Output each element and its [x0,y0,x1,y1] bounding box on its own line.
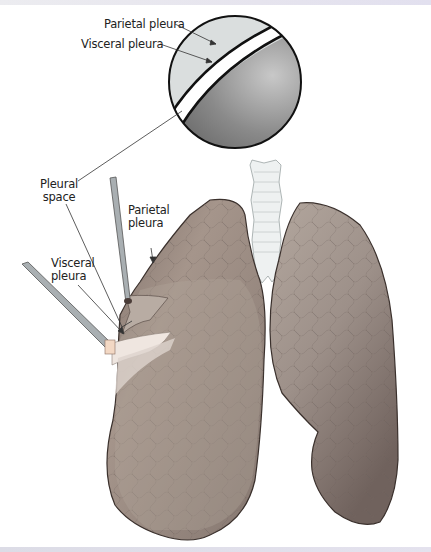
magnified-inset [160,10,310,160]
label-visceral-pleura: Visceral pleura [51,257,95,283]
label-parietal-pleura: Parietal pleura [128,204,170,230]
bottom-edge-band [0,547,431,552]
inset-label-visceral-pleura: Visceral pleura [81,38,163,51]
label-pleural-space-line2: space [40,191,78,204]
label-parietal-pleura-line2: pleura [128,217,170,230]
label-visceral-pleura-line2: pleura [51,270,95,283]
label-pleural-space: Pleural space [40,178,78,204]
left-lung [270,203,398,525]
inset-label-parietal-pleura: Parietal pleura [104,18,185,31]
retractor-upper [110,177,132,304]
inset-connector-line [78,111,182,181]
